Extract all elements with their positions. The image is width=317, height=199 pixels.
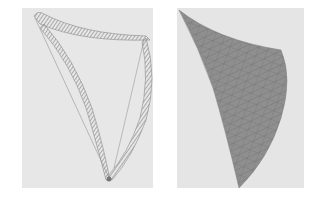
right-mesh-panel: [177, 8, 304, 188]
left-wireframe-panel: [22, 8, 153, 188]
wireframe-sketch: [22, 8, 153, 188]
mesh-surface: [177, 8, 304, 188]
